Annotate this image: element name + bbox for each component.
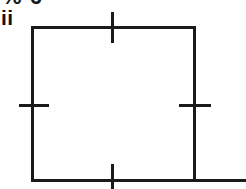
geometry-figure: % 6 ii <box>0 0 246 189</box>
figure-canvas <box>0 0 246 189</box>
square-shape <box>32 27 194 180</box>
